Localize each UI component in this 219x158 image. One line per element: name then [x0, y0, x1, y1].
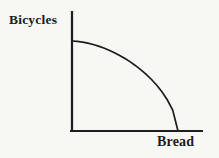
- x-axis-label: Bread: [157, 134, 194, 150]
- ppf-curve: [72, 41, 178, 131]
- ppf-figure: Bicycles Bread: [0, 0, 219, 158]
